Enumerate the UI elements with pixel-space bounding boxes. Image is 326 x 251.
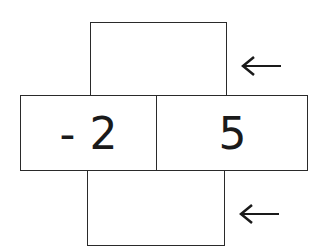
- bottom-answer-box[interactable]: [87, 170, 225, 246]
- middle-right-value: 5: [157, 95, 308, 171]
- top-answer-box[interactable]: [90, 22, 227, 98]
- left-arrow-icon: [238, 55, 284, 77]
- middle-left-value: - 2: [20, 95, 157, 171]
- left-arrow-icon: [236, 203, 282, 225]
